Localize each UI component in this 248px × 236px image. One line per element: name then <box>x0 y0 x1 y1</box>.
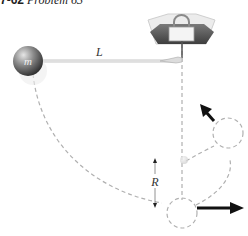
swing-arc <box>33 74 162 203</box>
velocity-arrow-top <box>200 104 214 121</box>
velocity-arrow-bottom <box>197 202 244 214</box>
string <box>34 57 182 63</box>
ceiling-clamp <box>148 14 215 44</box>
rising-path <box>196 160 230 205</box>
top-circle-path <box>213 118 243 148</box>
peg-connector-path <box>186 146 214 161</box>
mass-ball: m <box>13 46 47 85</box>
ghost-ball <box>180 156 188 164</box>
radius-label: R <box>150 175 159 189</box>
mass-label: m <box>24 55 32 67</box>
pendulum-diagram: m L R <box>0 0 248 236</box>
bottom-circle-path <box>167 198 197 228</box>
length-label: L <box>95 45 103 59</box>
